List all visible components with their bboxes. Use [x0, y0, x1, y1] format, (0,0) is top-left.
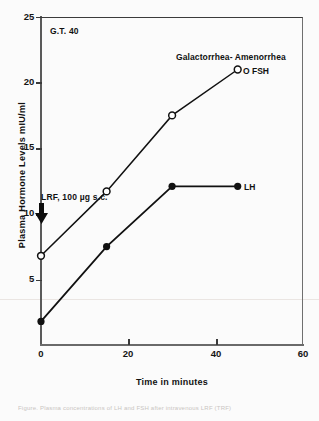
- data-plot-layer: [0, 0, 319, 421]
- fsh-point-0: [38, 252, 45, 259]
- series-label-fsh: O FSH: [243, 66, 269, 76]
- series-lh: [37, 183, 241, 325]
- figure-caption: Figure. Plasma concentrations of LH and …: [18, 405, 304, 414]
- series-label-lh: LH: [244, 182, 255, 192]
- series-fsh: [38, 66, 242, 259]
- lh-point-45: [234, 183, 241, 190]
- fsh-point-30: [169, 112, 176, 119]
- figure-panel: Plasma Hormone Levels mIU/ml Time in min…: [0, 0, 319, 421]
- fsh-line: [41, 70, 238, 256]
- fsh-point-15: [103, 188, 110, 195]
- fsh-point-45: [234, 66, 241, 73]
- lh-line: [41, 186, 238, 321]
- lh-point-0: [37, 318, 44, 325]
- lh-point-15: [103, 243, 110, 250]
- lh-point-30: [169, 183, 176, 190]
